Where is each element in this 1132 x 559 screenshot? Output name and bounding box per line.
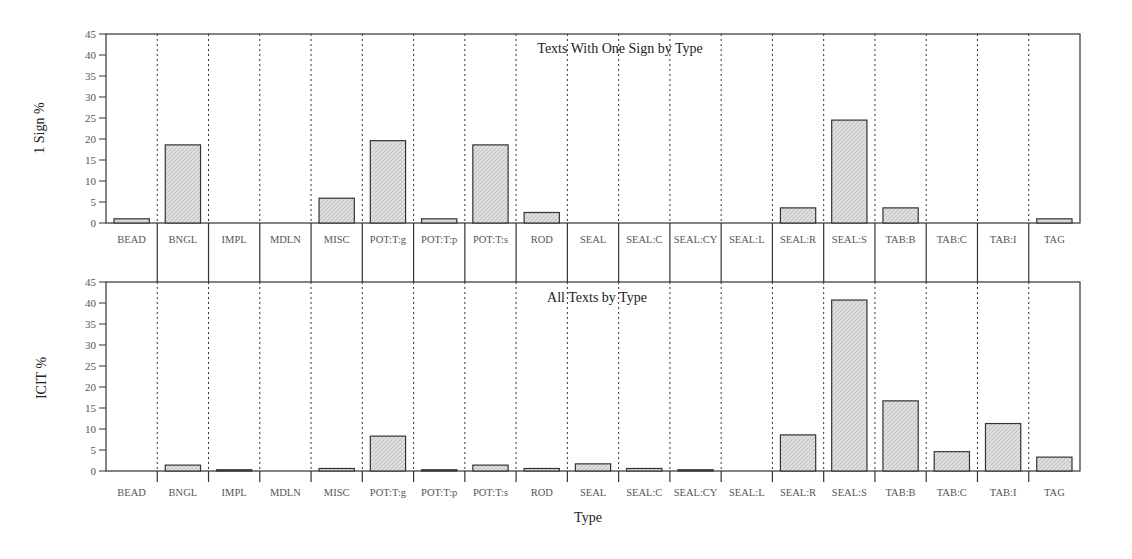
category-label: SEAL:C bbox=[626, 487, 662, 498]
bar bbox=[165, 465, 200, 471]
bar bbox=[114, 219, 149, 223]
bar bbox=[883, 401, 918, 471]
bar bbox=[370, 436, 405, 471]
y-tick-label: 5 bbox=[91, 196, 97, 208]
bar bbox=[1037, 219, 1072, 223]
y-tick-label: 35 bbox=[85, 318, 97, 330]
y-tick-label: 20 bbox=[85, 381, 97, 393]
y-tick-label: 40 bbox=[85, 297, 97, 309]
category-label: SEAL:S bbox=[832, 234, 867, 245]
bar bbox=[473, 145, 508, 223]
category-label: IMPL bbox=[222, 487, 247, 498]
category-label: TAB:B bbox=[886, 234, 916, 245]
bar bbox=[422, 219, 457, 223]
category-label: MDLN bbox=[270, 487, 301, 498]
category-label: TAB:I bbox=[990, 234, 1017, 245]
category-label: SEAL:L bbox=[729, 234, 765, 245]
category-label: POT:T:g bbox=[370, 487, 407, 498]
bar bbox=[678, 470, 713, 471]
y-tick-label: 25 bbox=[85, 360, 97, 372]
category-label: ROD bbox=[531, 487, 554, 498]
category-label: POT:T:g bbox=[370, 234, 407, 245]
category-label: SEAL:R bbox=[780, 487, 816, 498]
category-label: TAB:C bbox=[937, 487, 967, 498]
bar bbox=[524, 213, 559, 224]
bar bbox=[883, 208, 918, 223]
category-label: SEAL bbox=[580, 487, 606, 498]
category-label: POT:T:s bbox=[473, 487, 508, 498]
chart-title: Texts With One Sign by Type bbox=[537, 41, 702, 56]
y-axis-title: 1 Sign % bbox=[32, 102, 47, 154]
plot-frame bbox=[106, 34, 1080, 223]
y-tick-label: 30 bbox=[85, 91, 97, 103]
bar bbox=[780, 208, 815, 223]
category-label: TAG bbox=[1044, 487, 1065, 498]
plot-frame bbox=[106, 282, 1080, 471]
category-label: BEAD bbox=[117, 487, 146, 498]
y-tick-label: 45 bbox=[85, 28, 97, 40]
y-tick-label: 10 bbox=[85, 175, 97, 187]
bar bbox=[627, 468, 662, 471]
y-tick-label: 30 bbox=[85, 339, 97, 351]
category-label: POT:T:p bbox=[421, 234, 457, 245]
bar bbox=[422, 470, 457, 471]
category-label: MISC bbox=[324, 234, 350, 245]
bar bbox=[1037, 457, 1072, 471]
bar bbox=[832, 300, 867, 471]
category-label: TAB:I bbox=[990, 487, 1017, 498]
category-label: BEAD bbox=[117, 234, 146, 245]
category-label: ROD bbox=[531, 234, 554, 245]
y-tick-label: 40 bbox=[85, 49, 97, 61]
category-label: TAG bbox=[1044, 234, 1065, 245]
category-label: SEAL:CY bbox=[674, 487, 718, 498]
category-label: POT:T:s bbox=[473, 234, 508, 245]
bar bbox=[165, 145, 200, 223]
bar bbox=[985, 424, 1020, 471]
category-label: SEAL:R bbox=[780, 234, 816, 245]
category-label: IMPL bbox=[222, 234, 247, 245]
category-label: MDLN bbox=[270, 234, 301, 245]
bar bbox=[832, 120, 867, 223]
x-axis-title: Type bbox=[574, 510, 602, 525]
y-axis-title: ICIT % bbox=[34, 357, 49, 399]
bar bbox=[575, 464, 610, 471]
category-label: POT:T:p bbox=[421, 487, 457, 498]
bar bbox=[934, 452, 969, 471]
category-label: MISC bbox=[324, 487, 350, 498]
y-tick-label: 0 bbox=[91, 217, 97, 229]
category-label: BNGL bbox=[169, 487, 198, 498]
y-tick-label: 20 bbox=[85, 133, 97, 145]
y-tick-label: 25 bbox=[85, 112, 97, 124]
y-tick-label: 10 bbox=[85, 423, 97, 435]
chart-figure: 0510152025303540451 Sign %Texts With One… bbox=[0, 0, 1132, 559]
bar bbox=[524, 468, 559, 471]
bar bbox=[319, 468, 354, 471]
category-label: TAB:B bbox=[886, 487, 916, 498]
y-tick-label: 45 bbox=[85, 276, 97, 288]
category-label: SEAL bbox=[580, 234, 606, 245]
bottom-chart-panel: 051015202530354045ICIT %All Texts by Typ… bbox=[34, 276, 1080, 498]
category-label: BNGL bbox=[169, 234, 198, 245]
bar bbox=[370, 141, 405, 223]
category-label: SEAL:S bbox=[832, 487, 867, 498]
top-chart-panel: 0510152025303540451 Sign %Texts With One… bbox=[32, 28, 1080, 282]
category-label: SEAL:C bbox=[626, 234, 662, 245]
category-label: TAB:C bbox=[937, 234, 967, 245]
category-label: SEAL:L bbox=[729, 487, 765, 498]
bar bbox=[217, 470, 252, 471]
category-label: SEAL:CY bbox=[674, 234, 718, 245]
bar bbox=[319, 198, 354, 223]
chart-title: All Texts by Type bbox=[547, 290, 647, 305]
y-tick-label: 15 bbox=[85, 402, 97, 414]
y-tick-label: 5 bbox=[91, 444, 97, 456]
y-tick-label: 0 bbox=[91, 465, 97, 477]
bar bbox=[780, 435, 815, 471]
y-tick-label: 15 bbox=[85, 154, 97, 166]
y-tick-label: 35 bbox=[85, 70, 97, 82]
bar bbox=[473, 465, 508, 471]
